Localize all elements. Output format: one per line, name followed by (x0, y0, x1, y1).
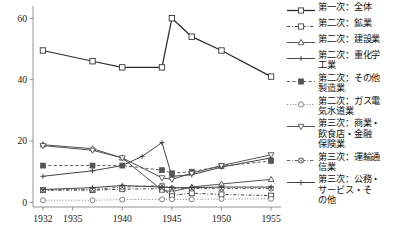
y-axis-tick-label: 40 (17, 74, 27, 85)
data-point-marker (169, 171, 174, 176)
series-3 (40, 140, 273, 179)
legend-item-label: 第二次：建設業 (316, 34, 380, 44)
legend-key-icon (286, 119, 316, 132)
x-axis-tick-label: 1945 (162, 213, 181, 224)
data-point-marker (169, 16, 174, 21)
legend-key-icon (286, 19, 316, 32)
legend-item-label: 第三次：公務・ サービス・そ の他 (316, 174, 380, 205)
data-point-marker (40, 163, 45, 168)
y-axis-tick-label: 0 (22, 197, 27, 208)
legend-item-8: 第三次：公務・ サービス・そ の他 (286, 174, 404, 205)
x-axis-tick-label: 1935 (63, 213, 82, 224)
data-point-marker (268, 74, 273, 79)
line-chart-plot: 0204060193219351940194519501955 (0, 0, 286, 231)
chart-figure: 0204060193219351940194519501955 第一次：全体第二… (0, 0, 404, 231)
series-5 (40, 196, 273, 203)
chart-legend: 第一次：全体第二次：鉱業第二次：建設業第二次：重化学 工業第二次：その他 製造業… (286, 2, 404, 208)
data-point-marker (120, 163, 125, 168)
legend-item-5: 第二次：ガス電 気水道業 (286, 96, 404, 117)
data-point-marker (219, 197, 224, 202)
data-point-marker (189, 197, 194, 202)
legend-item-3: 第二次：重化学 工業 (286, 50, 404, 71)
data-point-marker (298, 8, 303, 13)
legend-item-label: 第一次：全体 (316, 2, 371, 12)
data-point-marker (90, 59, 95, 64)
series-line (43, 161, 271, 173)
series-0 (40, 16, 274, 80)
series-line (43, 189, 271, 196)
data-point-marker (298, 102, 303, 107)
data-point-marker (159, 65, 164, 70)
legend-item-label: 第二次：鉱業 (316, 18, 371, 28)
data-point-marker (120, 197, 125, 202)
legend-item-2: 第二次：建設業 (286, 34, 404, 48)
legend-key-icon (286, 153, 316, 166)
data-point-marker (120, 65, 125, 70)
series-line (43, 18, 271, 76)
x-axis-tick-label: 1940 (113, 213, 132, 224)
data-point-marker (298, 79, 303, 84)
data-point-marker (40, 48, 45, 53)
series-line (43, 146, 271, 180)
series-6 (40, 144, 274, 183)
series-line (43, 199, 271, 201)
legend-key-icon (286, 175, 316, 188)
legend-item-label: 第二次：重化学 工業 (316, 50, 380, 71)
legend-item-7: 第三次：運輸通 信業 (286, 152, 404, 173)
data-point-marker (298, 24, 303, 29)
data-point-marker (269, 158, 274, 163)
x-axis-tick-label: 1932 (33, 213, 52, 224)
legend-item-label: 第三次：商業・ 飲食店・金融 保険業 (316, 118, 380, 149)
legend-key-icon (286, 97, 316, 110)
series-2 (40, 142, 274, 194)
data-point-marker (268, 176, 274, 181)
legend-item-label: 第三次：運輸通 信業 (316, 152, 380, 173)
legend-key-icon (286, 74, 316, 87)
series-8 (40, 183, 273, 192)
y-axis-tick-label: 20 (17, 135, 27, 146)
series-7 (40, 183, 273, 193)
x-axis-tick-label: 1950 (212, 213, 231, 224)
legend-item-4: 第二次：その他 製造業 (286, 73, 404, 94)
legend-item-6: 第三次：商業・ 飲食店・金融 保険業 (286, 118, 404, 149)
legend-key-icon (286, 35, 316, 48)
data-point-marker (90, 163, 95, 168)
legend-key-icon (286, 3, 316, 16)
data-point-marker (159, 168, 164, 173)
data-point-marker (169, 197, 174, 202)
data-point-marker (269, 196, 274, 201)
x-axis-tick-label: 1955 (261, 213, 280, 224)
data-point-marker (169, 177, 175, 182)
data-point-marker (159, 197, 164, 202)
legend-item-0: 第一次：全体 (286, 2, 404, 16)
y-axis-tick-label: 60 (17, 13, 27, 24)
legend-key-icon (286, 51, 316, 64)
legend-item-1: 第二次：鉱業 (286, 18, 404, 32)
data-point-marker (189, 34, 194, 39)
series-line (43, 145, 271, 192)
legend-item-label: 第二次：ガス電 気水道業 (316, 96, 380, 117)
data-point-marker (90, 198, 95, 203)
legend-item-label: 第二次：その他 製造業 (316, 73, 380, 94)
data-point-marker (40, 198, 45, 203)
data-point-marker (219, 48, 224, 53)
